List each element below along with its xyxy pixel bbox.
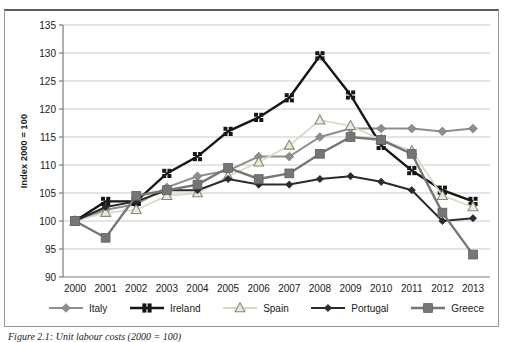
ireland-squares-marker-icon [129, 301, 165, 315]
greece-square-marker-icon [410, 301, 446, 315]
legend-item-ireland: Ireland [129, 301, 201, 315]
svg-text:2012: 2012 [431, 283, 454, 294]
svg-text:130: 130 [39, 48, 56, 59]
legend-label-greece: Greece [451, 303, 484, 314]
svg-text:2004: 2004 [186, 283, 209, 294]
svg-text:2009: 2009 [339, 283, 362, 294]
figure-caption: Figure 2.1: Unit labour costs (2000 = 10… [8, 331, 428, 342]
svg-text:2000: 2000 [64, 283, 87, 294]
svg-text:120: 120 [39, 104, 56, 115]
svg-text:2008: 2008 [309, 283, 332, 294]
legend: Italy Ireland Spain Portugal Greece [48, 298, 484, 318]
svg-text:115: 115 [40, 132, 56, 143]
svg-text:2005: 2005 [217, 283, 240, 294]
svg-text:105: 105 [39, 188, 56, 199]
legend-label-portugal: Portugal [351, 303, 388, 314]
legend-item-greece: Greece [410, 301, 484, 315]
italy-diamond-marker-icon [48, 301, 84, 315]
svg-text:2011: 2011 [401, 283, 423, 294]
legend-label-spain: Spain [263, 303, 289, 314]
svg-text:110: 110 [40, 160, 56, 171]
svg-text:2006: 2006 [248, 283, 271, 294]
svg-text:125: 125 [39, 76, 56, 87]
svg-text:2007: 2007 [278, 283, 301, 294]
legend-label-ireland: Ireland [170, 303, 201, 314]
legend-item-spain: Spain [222, 301, 289, 315]
svg-text:2002: 2002 [125, 283, 148, 294]
svg-text:2001: 2001 [94, 283, 117, 294]
legend-item-italy: Italy [48, 301, 107, 315]
svg-text:2013: 2013 [462, 283, 485, 294]
svg-text:2003: 2003 [156, 283, 179, 294]
y-axis-title: Index 2000 = 100 [19, 91, 29, 211]
portugal-diamond-marker-icon [310, 301, 346, 315]
legend-label-italy: Italy [89, 303, 107, 314]
svg-text:90: 90 [45, 272, 57, 283]
svg-text:100: 100 [39, 216, 56, 227]
svg-text:95: 95 [45, 244, 57, 255]
legend-item-portugal: Portugal [310, 301, 388, 315]
spain-triangle-marker-icon [222, 301, 258, 315]
svg-text:135: 135 [39, 20, 56, 31]
svg-text:2010: 2010 [370, 283, 393, 294]
